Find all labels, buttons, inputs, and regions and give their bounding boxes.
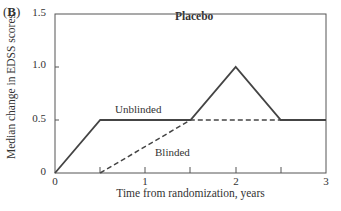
plot-frame xyxy=(55,14,326,173)
series-line-unblinded xyxy=(55,67,326,173)
x-axis-ticks xyxy=(100,167,281,173)
series-line-blinded xyxy=(100,120,326,173)
y-axis-ticks xyxy=(55,67,59,120)
chart-plot xyxy=(0,0,341,211)
